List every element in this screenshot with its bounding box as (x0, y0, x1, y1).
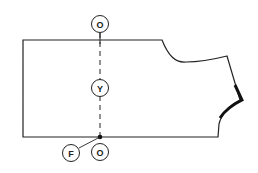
marker-top-o: O (92, 16, 109, 33)
emphasized-edge (220, 85, 242, 118)
marker-f: F (63, 145, 80, 162)
marker-y: Y (92, 80, 109, 97)
pattern-outline (23, 40, 240, 137)
pattern-diagram: O Y F O (0, 0, 258, 173)
marker-f-label: F (68, 149, 74, 159)
marker-y-label: Y (97, 84, 103, 94)
marker-top-o-label: O (96, 20, 103, 30)
marker-bottom-o-label: O (96, 148, 103, 158)
marker-bottom-o: O (92, 144, 109, 161)
